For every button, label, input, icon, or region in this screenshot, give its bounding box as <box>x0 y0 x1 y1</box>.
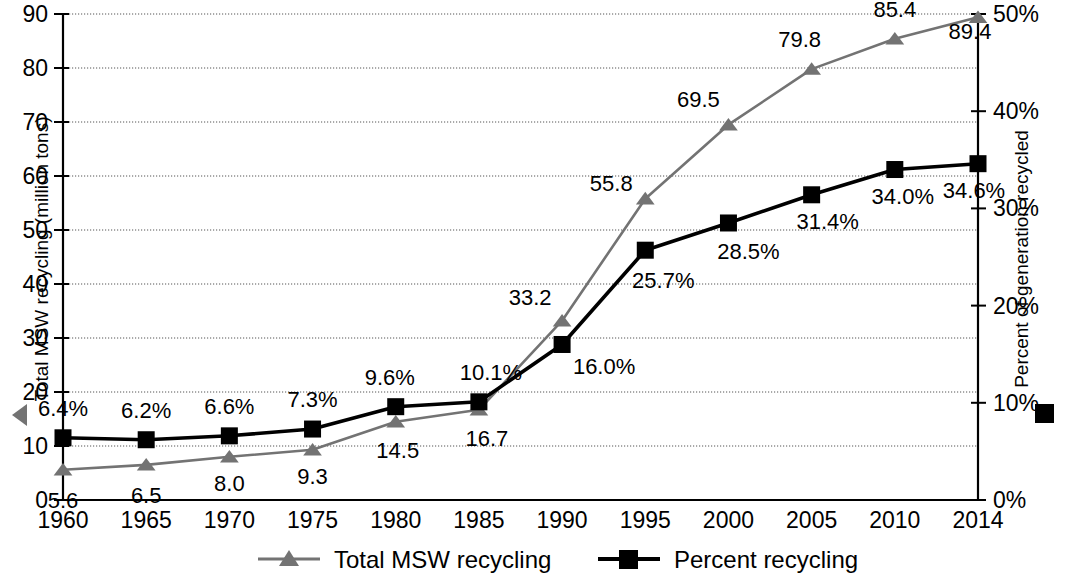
marker-square <box>637 242 654 259</box>
marker-square <box>886 161 903 178</box>
x-tick-label: 2000 <box>703 507 754 533</box>
recycling-line-chart: 0102030405060708090 0%10%20%30%40%50% 19… <box>0 0 1067 577</box>
data-label-percent: 9.6% <box>365 365 415 390</box>
x-tick-label: 1985 <box>453 507 504 533</box>
chart-container: 0102030405060708090 0%10%20%30%40%50% 19… <box>0 0 1067 577</box>
data-label-percent: 10.1% <box>460 360 522 385</box>
x-tick-label: 1995 <box>620 507 671 533</box>
marker-square <box>720 214 737 231</box>
data-label-percent: 25.7% <box>632 268 694 293</box>
legend-marker-square <box>619 550 638 569</box>
y-left-tick-label: 90 <box>22 1 48 27</box>
data-label-total-msw: 33.2 <box>509 285 552 310</box>
marker-triangle <box>802 62 821 75</box>
x-tick-label: 2014 <box>952 507 1003 533</box>
x-tick-label: 1975 <box>287 507 338 533</box>
y-axis-right-title: Percent of generation recycled <box>1011 49 1033 469</box>
data-label-percent: 6.2% <box>121 398 171 423</box>
data-label-total-msw: 5.6 <box>48 488 79 513</box>
marker-square <box>970 155 987 172</box>
data-label-group: 5.66.58.09.314.516.733.255.869.579.885.4… <box>38 0 1005 513</box>
data-label-percent: 28.5% <box>717 239 779 264</box>
data-label-total-msw: 79.8 <box>778 27 821 52</box>
x-tick-label-group: 1960196519701975198019851990199520002005… <box>37 507 1003 533</box>
axis-title-triangle-left-icon <box>12 404 27 426</box>
y-axis-left-title: Total MSW recycling (million tons) <box>31 49 53 469</box>
data-label-total-msw: 85.4 <box>873 0 916 22</box>
data-label-total-msw: 14.5 <box>376 438 419 463</box>
data-label-total-msw: 9.3 <box>297 464 328 489</box>
marker-square <box>138 431 155 448</box>
marker-square <box>470 393 487 410</box>
data-label-percent: 7.3% <box>287 387 337 412</box>
marker-square <box>803 186 820 203</box>
x-tick-label: 2010 <box>869 507 920 533</box>
y-right-tick-label: 50% <box>993 1 1039 27</box>
data-label-percent: 31.4% <box>796 209 858 234</box>
legend: Total MSW recyclingPercent recycling <box>258 546 858 573</box>
x-tick-label: 1990 <box>537 507 588 533</box>
marker-triangle <box>553 314 572 327</box>
series-line-group <box>63 17 978 470</box>
x-tick-label: 1965 <box>121 507 172 533</box>
data-label-total-msw: 16.7 <box>465 426 508 451</box>
data-label-percent: 34.0% <box>872 184 934 209</box>
marker-square <box>55 429 72 446</box>
series-marker-group <box>54 10 988 475</box>
data-label-percent: 6.6% <box>204 394 254 419</box>
data-label-total-msw: 89.4 <box>949 19 992 44</box>
data-label-percent: 34.6% <box>943 178 1005 203</box>
data-label-total-msw: 69.5 <box>677 87 720 112</box>
axes-group <box>63 14 978 500</box>
x-tick-label: 2005 <box>786 507 837 533</box>
data-label-total-msw: 8.0 <box>214 471 245 496</box>
axis-title-square-icon <box>1035 404 1054 423</box>
marker-square <box>387 398 404 415</box>
data-label-total-msw: 55.8 <box>590 171 633 196</box>
x-tick-label: 1970 <box>204 507 255 533</box>
x-tick-label: 1980 <box>370 507 421 533</box>
legend-label-1: Total MSW recycling <box>334 546 551 573</box>
marker-square <box>221 427 238 444</box>
data-label-total-msw: 6.5 <box>131 483 162 508</box>
marker-square <box>554 336 571 353</box>
marker-square <box>304 421 321 438</box>
series-line-1 <box>63 17 978 470</box>
legend-label-2: Percent recycling <box>674 546 858 573</box>
data-label-percent: 16.0% <box>573 354 635 379</box>
